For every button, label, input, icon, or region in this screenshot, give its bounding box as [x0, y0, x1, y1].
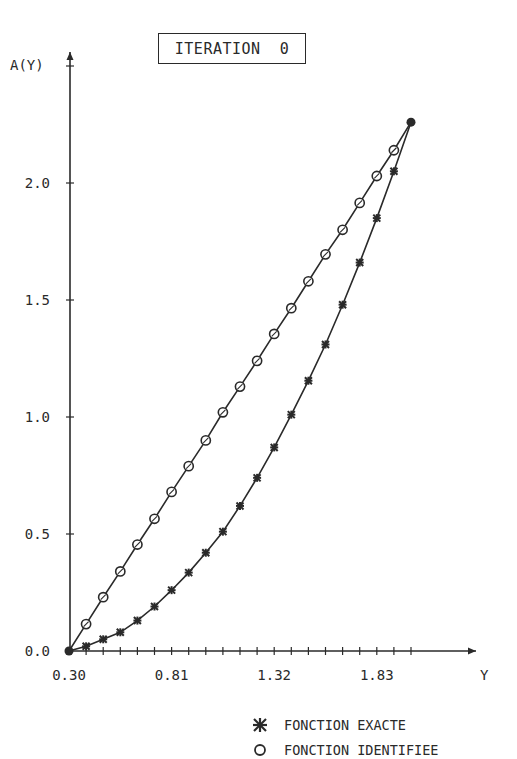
y-axis-arrow-icon	[67, 52, 74, 60]
star-marker-icon	[270, 443, 278, 451]
x-axis-arrow-icon	[468, 648, 476, 655]
x-tick-label: 0.30	[52, 667, 86, 683]
y-tick-label: 2.0	[25, 175, 50, 191]
y-tick-label: 1.5	[25, 292, 50, 308]
star-marker-icon	[133, 617, 141, 625]
star-marker-icon	[99, 635, 107, 643]
star-marker-icon	[168, 586, 176, 594]
x-axis-label: Y	[480, 667, 489, 683]
y-tick-label: 0.0	[25, 643, 50, 659]
y-tick-label: 0.5	[25, 526, 50, 542]
star-marker-icon	[82, 642, 90, 650]
star-marker-icon	[322, 340, 330, 348]
start-point-dot	[65, 647, 74, 656]
y-axis-label: A(Y)	[10, 57, 44, 73]
legend-item-exacte: FONCTION EXACTE	[250, 712, 438, 737]
star-marker-icon	[373, 214, 381, 222]
legend: FONCTION EXACTE FONCTION IDENTIFIEE	[250, 712, 438, 759]
star-marker-icon	[356, 259, 364, 267]
axes: 0.300.811.321.830.00.51.01.52.0	[25, 52, 476, 683]
star-marker-icon	[185, 569, 193, 577]
star-marker-icon	[287, 411, 295, 419]
circle-marker-icon	[250, 740, 270, 759]
end-point-dot	[407, 118, 416, 127]
star-marker-icon	[250, 715, 270, 735]
x-tick-label: 1.32	[257, 667, 291, 683]
star-marker-icon	[236, 502, 244, 510]
star-marker-icon	[219, 528, 227, 536]
star-marker-icon	[390, 167, 398, 175]
legend-label-exacte: FONCTION EXACTE	[284, 717, 406, 733]
legend-label-identifiee: FONCTION IDENTIFIEE	[284, 742, 438, 758]
star-marker-icon	[116, 628, 124, 636]
star-marker-icon	[151, 603, 159, 611]
chart-plot: 0.300.811.321.830.00.51.01.52.0 A(Y) Y	[0, 0, 517, 759]
y-tick-label: 1.0	[25, 409, 50, 425]
x-tick-label: 1.83	[360, 667, 394, 683]
star-marker-icon	[339, 301, 347, 309]
star-marker-icon	[253, 474, 261, 482]
x-tick-label: 0.81	[155, 667, 189, 683]
legend-item-identifiee: FONCTION IDENTIFIEE	[250, 737, 438, 759]
star-marker-icon	[202, 549, 210, 557]
star-marker-icon	[304, 377, 312, 385]
